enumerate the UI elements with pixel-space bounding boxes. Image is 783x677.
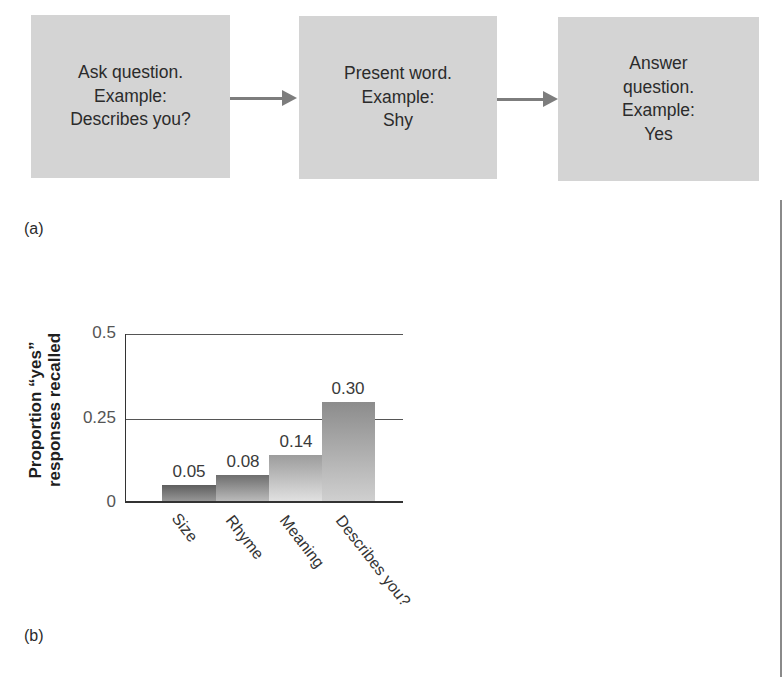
bar-value-label: 0.30 (318, 379, 378, 399)
x-axis-line (125, 501, 403, 503)
page-edge-divider (780, 200, 782, 677)
step-box-ask-question: Ask question. Example: Describes you? (31, 15, 230, 178)
x-category-label: Meaning (276, 512, 328, 571)
x-category-label: Size (168, 510, 201, 546)
y-axis-line (125, 334, 126, 503)
bar-value-label: 0.05 (159, 462, 219, 482)
bar-meaning (269, 455, 322, 502)
panel-label-a: (a) (24, 220, 44, 238)
step-text: Present word. (344, 62, 452, 86)
step-text: Example: (70, 85, 191, 109)
arrow-right-icon (230, 97, 283, 100)
step-box-answer-question: Answer question. Example: Yes (558, 17, 759, 181)
step-text: Describes you? (70, 108, 191, 132)
arrow-right-icon (497, 98, 544, 101)
bar-value-label: 0.08 (213, 452, 273, 472)
arrowhead-icon (282, 90, 297, 106)
y-axis-title: Proportion “yes” responses recalled (26, 315, 64, 505)
x-category-label: Describes you? (332, 512, 414, 610)
bar-size (162, 485, 216, 502)
y-tick-label: 0.5 (66, 323, 116, 343)
gridline-0.5 (126, 334, 403, 335)
y-tick-label: 0 (66, 492, 116, 512)
y-tick-label: 0.25 (66, 408, 116, 428)
panel-label-b: (b) (24, 627, 44, 645)
step-text: question. (622, 76, 695, 100)
step-text: Answer (622, 52, 695, 76)
y-axis-title-line1: Proportion “yes” (26, 315, 45, 505)
step-text: Yes (622, 123, 695, 147)
step-text: Ask question. (70, 61, 191, 85)
step-text: Example: (344, 86, 452, 110)
bar-rhyme (216, 475, 269, 502)
step-box-present-word: Present word. Example: Shy (299, 16, 497, 179)
arrowhead-icon (543, 91, 558, 107)
y-axis-title-line2: responses recalled (45, 315, 64, 505)
bar-value-label: 0.14 (266, 432, 326, 452)
step-text: Example: (622, 99, 695, 123)
bar-describes-you (322, 402, 375, 502)
step-text: Shy (344, 109, 452, 133)
x-category-label: Rhyme (222, 512, 267, 563)
